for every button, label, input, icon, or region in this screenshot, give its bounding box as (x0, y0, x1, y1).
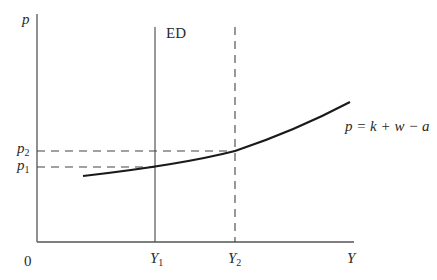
p2-label: p2 (17, 141, 30, 158)
ed-label: ED (166, 26, 186, 41)
origin-label: 0 (24, 254, 32, 269)
p1-label: p1 (17, 158, 30, 175)
price-curve (83, 102, 350, 176)
x-axis-label: Y (347, 251, 355, 266)
y1-label: Y1 (150, 251, 163, 268)
y-axis-label: p (22, 12, 30, 27)
diagram-canvas (0, 0, 437, 280)
curve-equation-label: p = k + w − a (345, 119, 430, 134)
y2-label: Y2 (228, 251, 241, 268)
